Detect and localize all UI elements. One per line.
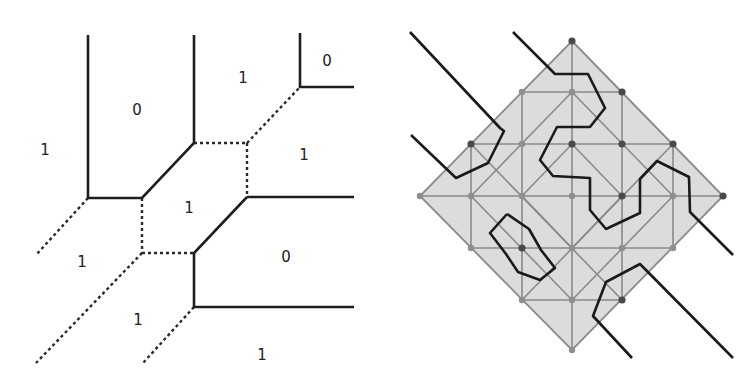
region-label: 1 bbox=[184, 199, 194, 217]
lattice-point-light bbox=[670, 245, 676, 251]
lattice-point-light bbox=[519, 193, 525, 199]
region-label: 1 bbox=[40, 141, 50, 159]
lattice-point-light bbox=[519, 141, 525, 147]
lattice-point-light bbox=[569, 89, 575, 95]
dotted-edge bbox=[143, 307, 194, 363]
lattice-point-dark bbox=[568, 140, 575, 147]
lattice-point-light bbox=[468, 245, 474, 251]
region-label: 1 bbox=[133, 311, 143, 329]
solid-edge bbox=[194, 197, 354, 307]
lattice-point-dark bbox=[467, 140, 474, 147]
lattice-point-light bbox=[619, 245, 625, 251]
lattice-point-dark bbox=[618, 192, 625, 199]
region-label: 1 bbox=[257, 346, 267, 364]
region-label: 1 bbox=[77, 253, 87, 271]
lattice-point-light bbox=[569, 245, 575, 251]
tropical-curve-diagram: 1010111011 bbox=[36, 33, 354, 364]
region-label: 1 bbox=[299, 146, 309, 164]
dotted-edge bbox=[36, 253, 142, 363]
region-label: 0 bbox=[322, 52, 332, 70]
lattice-point-light bbox=[468, 193, 474, 199]
lattice-point-light bbox=[670, 193, 676, 199]
region-label: 1 bbox=[238, 69, 248, 87]
region-label: 0 bbox=[281, 248, 291, 266]
triangulated-diamond-diagram bbox=[410, 32, 733, 358]
dotted-edge bbox=[36, 198, 88, 255]
lattice-point-dark bbox=[568, 37, 575, 44]
lattice-point-light bbox=[569, 347, 575, 353]
curve-path bbox=[593, 264, 733, 358]
lattice-point-light bbox=[519, 297, 525, 303]
figure-canvas: 1010111011 bbox=[0, 0, 755, 386]
lattice-point-light bbox=[417, 193, 423, 199]
lattice-point-dark bbox=[618, 296, 625, 303]
lattice-point-dark bbox=[719, 192, 726, 199]
lattice-point-light bbox=[569, 193, 575, 199]
lattice-point-dark bbox=[618, 88, 625, 95]
lattice-point-light bbox=[519, 89, 525, 95]
lattice-point-dark bbox=[618, 140, 625, 147]
lattice-point-light bbox=[569, 297, 575, 303]
lattice-point-dark bbox=[518, 244, 525, 251]
dotted-edge bbox=[247, 87, 300, 143]
region-label: 0 bbox=[132, 101, 142, 119]
lattice-point-dark bbox=[669, 140, 676, 147]
